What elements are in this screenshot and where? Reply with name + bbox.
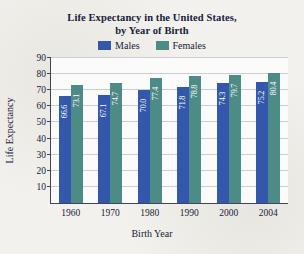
bar-groups: 66.673.1196067.174.7197070.077.4198071.8… xyxy=(51,58,288,203)
legend-item-males: Males xyxy=(98,40,139,51)
legend-swatch-icon xyxy=(98,41,111,50)
y-tick-label: 20 xyxy=(37,166,47,176)
y-tick-label: 40 xyxy=(37,134,47,144)
bar-group: 71.878.81990 xyxy=(170,58,210,203)
bar-value-label: 78.8 xyxy=(191,85,200,99)
x-tick-label: 2004 xyxy=(249,208,289,218)
bar-value-label: 66.6 xyxy=(60,104,69,118)
bar-value-label: 70.0 xyxy=(139,99,148,113)
chart-title-line-2: by Year of Birth xyxy=(0,25,304,38)
chart-figure: Life Expectancy in the United States, by… xyxy=(0,0,304,254)
bar-value-label: 67.1 xyxy=(100,104,109,118)
bar-group: 74.379.72000 xyxy=(209,58,249,203)
bar-value-label: 77.4 xyxy=(151,87,160,101)
bar-value-label: 79.7 xyxy=(230,83,239,97)
bar-males-2000: 74.3 xyxy=(217,83,229,203)
bar-females-2004: 80.4 xyxy=(268,73,280,203)
bar-group-1990: 71.878.8 xyxy=(170,58,210,203)
x-tick-label: 2000 xyxy=(209,208,249,218)
y-tick-label: 70 xyxy=(37,85,47,95)
bar-group-1980: 70.077.4 xyxy=(130,58,170,203)
bar-females-1990: 78.8 xyxy=(189,76,201,203)
bar-value-label: 75.2 xyxy=(258,91,267,105)
bar-females-1980: 77.4 xyxy=(150,78,162,203)
y-tick-label: 80 xyxy=(37,69,47,79)
bar-females-1970: 74.7 xyxy=(110,83,122,203)
y-axis-title-text: Life Expectancy xyxy=(5,98,16,164)
x-tick-label: 1980 xyxy=(130,208,170,218)
bar-males-1990: 71.8 xyxy=(177,87,189,203)
chart-title-line-1: Life Expectancy in the United States, xyxy=(0,12,304,25)
x-axis-title: Birth Year xyxy=(0,228,304,239)
bar-males-1960: 66.6 xyxy=(59,96,71,203)
bar-group: 67.174.71970 xyxy=(91,58,131,203)
bar-males-2004: 75.2 xyxy=(256,82,268,203)
y-tick-label: 60 xyxy=(37,101,47,111)
bar-males-1980: 70.0 xyxy=(138,90,150,203)
bar-value-label: 74.3 xyxy=(218,92,227,106)
y-tick-label: 90 xyxy=(37,53,47,63)
legend-item-females: Females xyxy=(156,40,206,51)
bar-group-2000: 74.379.7 xyxy=(209,58,249,203)
bar-females-1960: 73.1 xyxy=(71,85,83,203)
plot-area: 102030405060708090 66.673.1196067.174.71… xyxy=(50,58,288,204)
bar-females-2000: 79.7 xyxy=(229,75,241,203)
x-tick-label: 1960 xyxy=(51,208,91,218)
legend-swatch-icon xyxy=(156,41,169,50)
y-tick-label: 30 xyxy=(37,150,47,160)
legend-label: Females xyxy=(173,40,206,51)
x-tick-label: 1970 xyxy=(91,208,131,218)
bar-group-2004: 75.280.4 xyxy=(249,58,289,203)
chart-legend: MalesFemales xyxy=(0,40,304,51)
bar-males-1970: 67.1 xyxy=(98,95,110,203)
y-tick-label: 10 xyxy=(37,182,47,192)
bar-group: 66.673.11960 xyxy=(51,58,91,203)
bar-group-1970: 67.174.7 xyxy=(91,58,131,203)
bar-group: 75.280.42004 xyxy=(249,58,289,203)
legend-label: Males xyxy=(115,40,139,51)
y-axis-title: Life Expectancy xyxy=(2,58,18,203)
x-tick-label: 1990 xyxy=(170,208,210,218)
bar-group-1960: 66.673.1 xyxy=(51,58,91,203)
y-tick-label: 50 xyxy=(37,117,47,127)
bar-group: 70.077.41980 xyxy=(130,58,170,203)
chart-title: Life Expectancy in the United States, by… xyxy=(0,12,304,37)
bar-value-label: 73.1 xyxy=(72,94,81,108)
bar-value-label: 71.8 xyxy=(179,96,188,110)
bar-value-label: 74.7 xyxy=(112,91,121,105)
bar-value-label: 80.4 xyxy=(270,82,279,96)
